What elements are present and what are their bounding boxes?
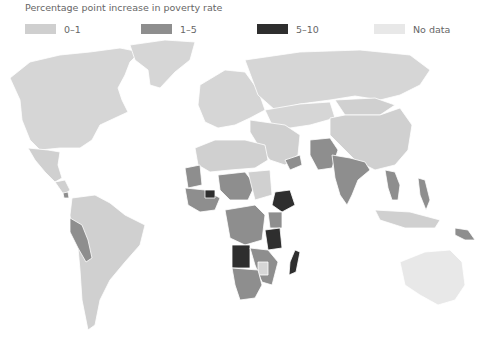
region-ethiopia (272, 190, 295, 212)
region-central-africa (225, 205, 265, 245)
region-north-america (10, 48, 140, 150)
region-burkina-faso (205, 190, 215, 198)
legend-swatch (141, 24, 172, 34)
region-madagascar (289, 250, 300, 275)
region-angola (232, 245, 250, 268)
region-tanzania (265, 228, 282, 250)
region-kenya (268, 212, 282, 228)
region-indonesia (375, 210, 440, 228)
legend-item-1-5: 1–5 (141, 22, 197, 36)
legend-swatch (25, 24, 56, 34)
legend-item-0-1: 0–1 (25, 22, 81, 36)
region-greenland (130, 40, 195, 88)
region-zimbabwe (258, 262, 268, 275)
region-north-africa (195, 140, 268, 172)
region-costa-rica (63, 192, 69, 198)
region-australia (400, 250, 465, 305)
region-india (332, 155, 370, 205)
legend-swatch (374, 24, 405, 34)
region-mexico (28, 148, 62, 182)
legend-label: 0–1 (64, 24, 81, 35)
map-subtitle: Percentage point increase in poverty rat… (25, 2, 222, 13)
region-sudan (248, 170, 272, 200)
region-south-america (70, 195, 145, 330)
legend-item-5-10: 5–10 (257, 22, 319, 36)
region-philippines (418, 178, 430, 210)
legend-label: 5–10 (296, 24, 319, 35)
region-mongolia (335, 98, 395, 115)
legend-label: 1–5 (180, 24, 197, 35)
world-map (0, 36, 499, 353)
legend-item-no-data: No data (374, 22, 450, 36)
region-papua-new-guinea (455, 228, 475, 240)
legend: 0–1 1–5 5–10 No data (25, 22, 495, 36)
region-mauritania (185, 165, 202, 188)
legend-label: No data (413, 24, 450, 35)
region-myanmar-laos-cambodia (385, 170, 400, 200)
legend-swatch (257, 24, 288, 34)
region-southern-africa (232, 268, 262, 300)
